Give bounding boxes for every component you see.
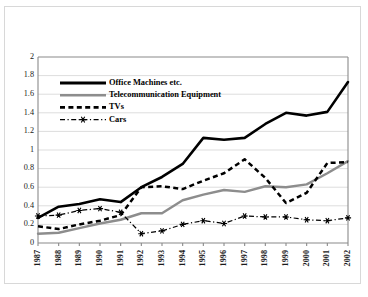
y-tick-label: 1.4 (24, 108, 34, 117)
x-tick-label: 1995 (198, 250, 207, 266)
x-tick-label: 1988 (54, 250, 63, 266)
x-tick-label: 2000 (302, 250, 311, 266)
y-tick-label: 0.4 (24, 201, 34, 210)
y-tick-label: 0.2 (24, 219, 34, 228)
legend-label: Office Machines etc. (109, 78, 182, 87)
x-axis-tick-labels: 1987198819891990199119921993199419951996… (33, 250, 352, 266)
y-tick-label: 0 (30, 238, 34, 247)
x-tick-label: 1996 (219, 250, 228, 266)
x-tick-label: 1991 (116, 250, 125, 266)
y-tick-label: 1 (30, 145, 34, 154)
legend-label: Telecommunication Equipment (109, 90, 221, 99)
x-tick-label: 1994 (178, 250, 187, 266)
y-tick-label: 0.8 (24, 163, 34, 172)
y-tick-label: 0.6 (24, 182, 34, 191)
x-tick-label: 1993 (157, 250, 166, 266)
y-tick-label: 2 (30, 52, 34, 61)
x-tick-label: 1990 (95, 250, 104, 266)
legend-label: Cars (109, 115, 127, 124)
x-tick-label: 1987 (33, 250, 42, 266)
x-tick-label: 1992 (136, 250, 145, 266)
y-axis-tick-labels: 00.20.40.60.811.21.41.61.82 (24, 52, 34, 247)
x-tick-label: 1997 (240, 250, 249, 266)
y-tick-label: 1.2 (24, 126, 34, 135)
line-chart: 00.20.40.60.811.21.41.61.82 198719881989… (0, 0, 368, 297)
x-tick-label: 2002 (343, 250, 352, 266)
legend-label: TVs (109, 102, 125, 111)
y-tick-label: 1.6 (24, 89, 34, 98)
y-tick-label: 1.8 (24, 70, 34, 79)
x-tick-label: 1999 (281, 250, 290, 266)
x-tick-label: 1989 (74, 250, 83, 266)
x-tick-label: 1998 (260, 250, 269, 266)
x-tick-label: 2001 (322, 250, 331, 266)
